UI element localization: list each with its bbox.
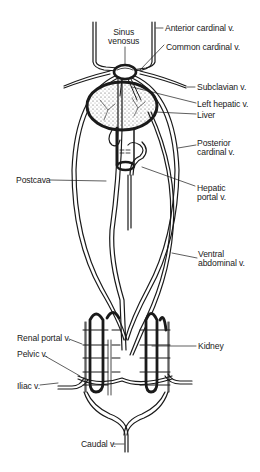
label-anterior-cardinal: Anterior cardinal v. <box>165 24 234 33</box>
label-line: venosus <box>108 37 139 46</box>
label-sinus-venosus: Sinus venosus <box>108 28 139 46</box>
label-subclavian: Subclavian v. <box>197 83 246 92</box>
label-caudal: Caudal v. <box>81 440 116 449</box>
label-posterior-cardinal: Posterior cardinal v. <box>197 139 234 157</box>
label-ventral-abdominal: Ventral abdominal v. <box>198 250 245 268</box>
label-hepatic-portal: Hepatic portal v. <box>197 184 226 202</box>
label-renal-portal: Renal portal v. <box>17 334 70 343</box>
label-line: portal v. <box>197 193 226 202</box>
venous-system-drawing <box>0 0 260 472</box>
label-pelvic: Pelvic v. <box>17 350 47 359</box>
label-postcava: Postcava <box>16 176 51 185</box>
label-kidney: Kidney <box>198 342 224 351</box>
label-line: abdominal v. <box>198 259 245 268</box>
label-iliac: Iliac v. <box>17 382 40 391</box>
label-line: cardinal v. <box>197 148 234 157</box>
pelvic-iliac-veins <box>58 374 192 389</box>
label-liver: Liver <box>197 111 215 120</box>
hepatic-portal-vein <box>109 130 146 230</box>
sinus-venosus <box>114 65 136 79</box>
label-common-cardinal: Common cardinal v. <box>166 43 240 52</box>
label-left-hepatic: Left hepatic v. <box>197 100 248 109</box>
